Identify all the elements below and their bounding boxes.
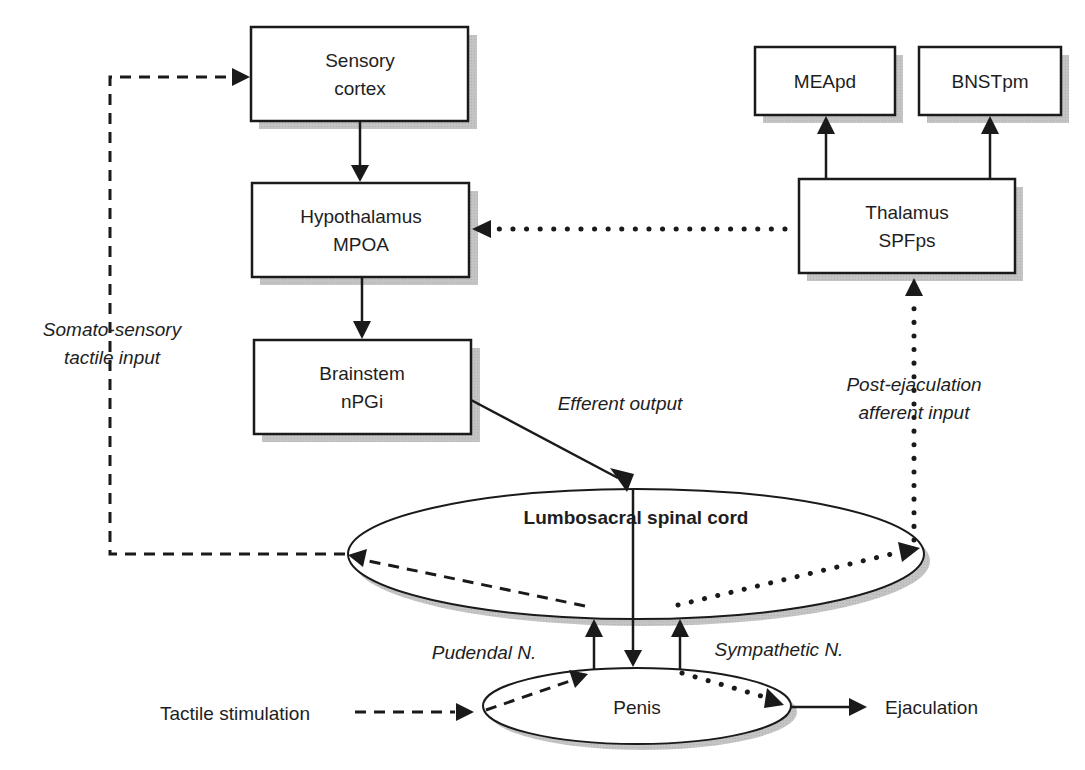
node-bnstpm-label: BNSTpm xyxy=(951,71,1028,92)
node-thalamus-line2: SPFps xyxy=(878,230,935,251)
label-pudendal-n: Pudendal N. xyxy=(432,642,537,663)
node-hypothalamus-line1: Hypothalamus xyxy=(300,206,421,227)
node-thalamus: Thalamus SPFps xyxy=(799,179,1015,273)
node-thalamus-line1: Thalamus xyxy=(865,202,948,223)
label-ejaculation: Ejaculation xyxy=(885,697,978,718)
label-post-ejaculation-line1: Post-ejaculation xyxy=(846,374,981,395)
node-bnstpm: BNSTpm xyxy=(919,47,1061,115)
node-hypothalamus-line2: MPOA xyxy=(333,234,389,255)
node-meapd-label: MEApd xyxy=(794,71,856,92)
label-post-ejaculation-line2: afferent input xyxy=(859,402,971,423)
label-tactile-stimulation: Tactile stimulation xyxy=(160,703,310,724)
node-meapd: MEApd xyxy=(755,47,895,115)
label-somato-sensory-line2: tactile input xyxy=(64,347,161,368)
label-somato-sensory-line1: Somato-sensory xyxy=(43,319,183,340)
node-sensory-cortex-line1: Sensory xyxy=(325,50,395,71)
label-efferent-output: Efferent output xyxy=(558,393,683,414)
label-sympathetic-n: Sympathetic N. xyxy=(715,639,844,660)
node-sensory-cortex: Sensory cortex xyxy=(251,27,468,121)
node-penis-label: Penis xyxy=(613,697,661,718)
node-spinal-cord-label: Lumbosacral spinal cord xyxy=(524,507,749,528)
neural-circuit-diagram: Sensory cortex Hypothalamus MPOA Brainst… xyxy=(0,0,1085,770)
node-brainstem-line1: Brainstem xyxy=(319,363,405,384)
node-spinal-cord: Lumbosacral spinal cord xyxy=(348,489,930,626)
node-hypothalamus: Hypothalamus MPOA xyxy=(252,183,469,277)
node-brainstem-line2: nPGi xyxy=(341,391,383,412)
dotted-arrowheads xyxy=(472,220,923,708)
node-brainstem: Brainstem nPGi xyxy=(254,340,471,434)
dotted-edges xyxy=(492,229,914,698)
node-sensory-cortex-line2: cortex xyxy=(334,78,386,99)
node-penis: Penis xyxy=(483,668,797,750)
